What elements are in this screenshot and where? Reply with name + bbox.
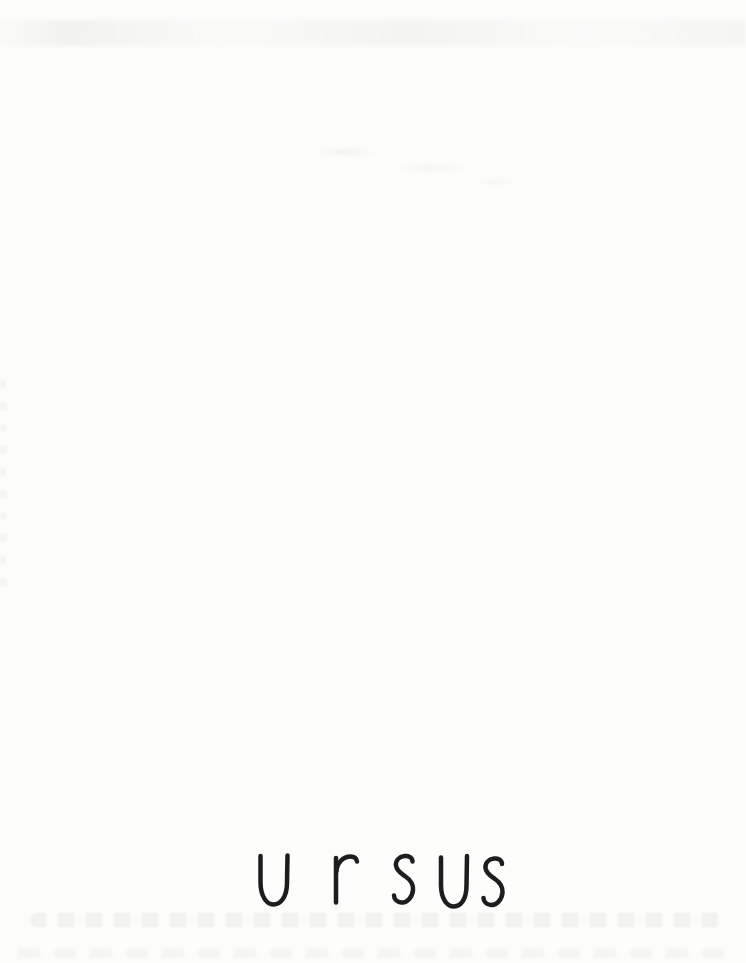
page-title-text: u r sus bbox=[248, 843, 528, 911]
scan-smudge-bottom-edge bbox=[18, 948, 730, 958]
title-lettering: u r sus bbox=[240, 835, 520, 925]
scan-smudge-mid bbox=[280, 120, 540, 270]
scan-smudge-left-edge bbox=[0, 380, 6, 590]
scan-smudge-top-band bbox=[0, 20, 746, 46]
scanned-page: u r sus bbox=[0, 0, 746, 963]
